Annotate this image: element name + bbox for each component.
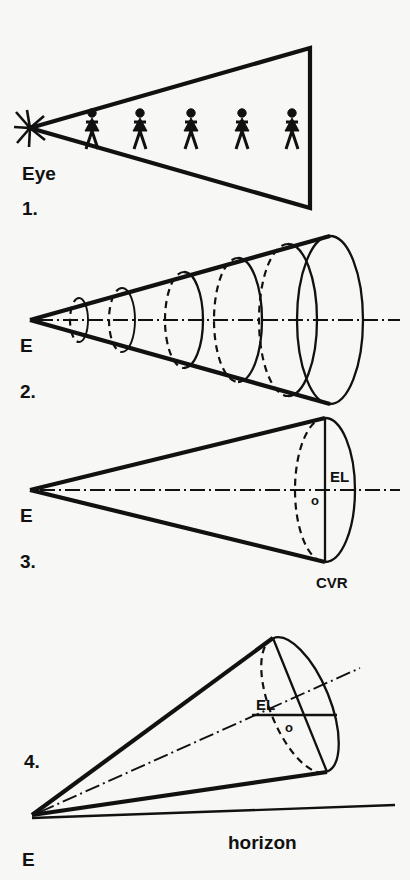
panel4-base-near-half: [273, 627, 355, 772]
panel3-base-label: CVR: [316, 574, 348, 591]
panel-1: Eye 1.: [14, 48, 310, 219]
panel3-center-label: o: [311, 493, 319, 508]
diagram-figure: Eye 1. E 2.: [0, 0, 410, 880]
panel2-base-circle: [297, 236, 363, 404]
panel4-number-label: 4.: [24, 751, 40, 772]
panel4-center-label: o: [285, 720, 293, 735]
panel2-number-label: 2.: [20, 381, 36, 402]
panel2-upper-ray: [30, 236, 330, 320]
eye-starburst-icon: [14, 110, 45, 147]
figure-person-1: [85, 109, 99, 149]
panel4-vertical-chord: [273, 638, 327, 772]
panel1-eye-label: Eye: [22, 163, 56, 184]
panel4-horizon-label: horizon: [228, 832, 297, 853]
panel3-upper-ray: [30, 418, 325, 490]
figure-person-5: [285, 109, 299, 149]
panel1-vision-triangle: [30, 48, 310, 208]
panel-4: EL o horizon 4. E: [22, 627, 395, 870]
panel4-upper-ray: [32, 638, 273, 815]
panel3-eye-label: E: [20, 505, 33, 526]
panel2-lower-ray: [30, 320, 330, 404]
panel4-eye-level-label: EL: [256, 696, 275, 713]
panel2-eye-label: E: [20, 335, 33, 356]
cone-of-vision-diagram: Eye 1. E 2.: [0, 0, 410, 880]
figure-person-4: [235, 109, 249, 149]
panel3-eye-level-label: EL: [330, 468, 349, 485]
panel-2: E 2.: [20, 236, 400, 404]
panel3-lower-ray: [30, 490, 325, 562]
panel4-eye-label: E: [22, 849, 35, 870]
figure-person-3: [184, 109, 198, 149]
panel1-number-label: 1.: [22, 198, 38, 219]
panel3-number-label: 3.: [20, 551, 36, 572]
figure-person-2: [133, 109, 147, 149]
panel-3: EL o CVR E 3.: [20, 418, 400, 591]
